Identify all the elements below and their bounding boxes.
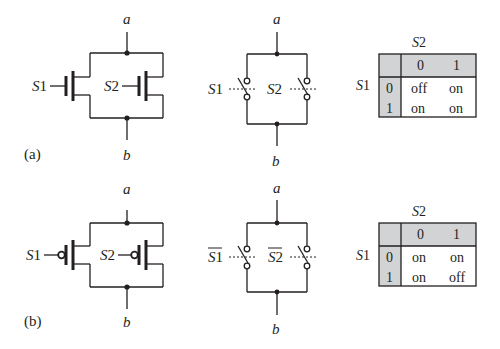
node-b-label: b: [123, 314, 131, 330]
switch-s1-label: S1: [208, 81, 223, 97]
switch-node-a-label: a: [273, 11, 281, 27]
node-b-label: b: [123, 147, 131, 163]
node-a-label: a: [123, 181, 131, 197]
cell-0-0: off: [411, 81, 427, 96]
cell-0-0: on: [412, 250, 426, 265]
cell-0-1: on: [449, 81, 463, 96]
row-value-0: 0: [386, 250, 393, 265]
row-header: S1: [356, 78, 370, 93]
row-value-0: 0: [386, 81, 393, 96]
panel-a-caption: (a): [24, 146, 41, 163]
col-header: S2: [412, 35, 426, 50]
switch-s2-label: S2: [267, 81, 282, 97]
row-header: S1: [356, 248, 370, 263]
gate-s1-label: S1: [32, 78, 47, 94]
gate-s1-label: S1: [26, 247, 41, 263]
cell-0-1: on: [450, 250, 464, 265]
cell-1-1: off: [449, 270, 465, 285]
col-header: S2: [412, 204, 426, 219]
switch-node-a-label: a: [273, 180, 281, 196]
cell-1-0: on: [411, 101, 425, 116]
switch-node-b-label: b: [272, 153, 280, 169]
switch-node-b-label: b: [272, 321, 280, 337]
row-value-1: 1: [386, 270, 393, 285]
cell-1-1: on: [449, 101, 463, 116]
col-value-1: 1: [453, 58, 460, 73]
switch-s1-bar-label: S1: [208, 249, 223, 265]
truth-table-b: S2 S1 0 1 0 1 on on on off: [356, 204, 476, 286]
switch-circuit-b: [208, 200, 318, 315]
col-value-0: 0: [417, 58, 424, 73]
col-value-1: 1: [453, 227, 460, 242]
col-value-0: 0: [417, 227, 424, 242]
panel-b: a b S1 S2 (b) a: [24, 180, 476, 337]
cell-1-0: on: [412, 270, 426, 285]
switch-s2-bar-label: S2: [268, 249, 283, 265]
panel-a: a b S1 S2 (a) a b S1 S2: [24, 11, 476, 169]
gate-s2-label: S2: [100, 247, 115, 263]
gate-s2-label: S2: [104, 78, 119, 94]
truth-table-a: S2 S1 0 1 0 1 off on on on: [356, 35, 476, 117]
figure-canvas: a b S1 S2 (a) a b S1 S2: [0, 0, 500, 349]
panel-b-caption: (b): [24, 313, 42, 330]
node-a-label: a: [123, 11, 131, 27]
row-value-1: 1: [386, 101, 393, 116]
